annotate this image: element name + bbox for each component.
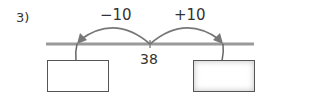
left-arrowhead-icon xyxy=(77,33,87,44)
right-connector xyxy=(222,44,223,61)
right-jump-arrow xyxy=(150,28,220,44)
center-value-label: 38 xyxy=(140,51,158,67)
left-answer-box[interactable] xyxy=(47,60,109,92)
right-answer-box[interactable] xyxy=(193,60,255,92)
left-jump-arrow xyxy=(80,28,150,44)
right-arrowhead-icon xyxy=(213,33,223,44)
left-jump-label: −10 xyxy=(100,6,132,24)
left-connector xyxy=(76,44,77,61)
right-jump-label: +10 xyxy=(174,6,206,24)
